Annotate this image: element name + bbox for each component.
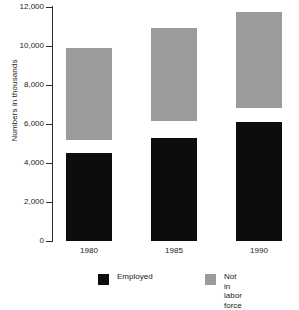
bar-segment-unemployed <box>236 108 282 122</box>
y-axis-tick-label: 2,000 <box>0 198 44 206</box>
y-axis-tick-label: 8,000 <box>0 81 44 89</box>
legend-swatch <box>205 274 216 285</box>
y-axis-tick-label: 0 <box>0 237 44 245</box>
y-axis-title: Numbers in thousands <box>10 31 19 171</box>
legend-label: Employed <box>117 272 153 282</box>
y-axis-tick <box>46 241 52 242</box>
bar-segment-employed <box>151 138 197 241</box>
y-axis-tick-label: 10,000 <box>0 42 44 50</box>
bar-segment-not-in-labor-force <box>236 12 282 109</box>
y-axis-tick-label: 6,000 <box>0 120 44 128</box>
y-axis-tick-label: 4,000 <box>0 159 44 167</box>
bar-segment-employed <box>66 153 112 241</box>
legend-swatch <box>98 274 109 285</box>
bar-segment-employed <box>236 122 282 241</box>
bar-segment-not-in-labor-force <box>66 48 112 140</box>
bar-segment-not-in-labor-force <box>151 28 197 121</box>
bar-segment-unemployed <box>66 140 112 154</box>
bar-1980 <box>66 48 112 241</box>
x-axis-label-1980: 1980 <box>64 246 114 255</box>
y-axis-tick-label: 12,000 <box>0 3 44 11</box>
plot-area <box>52 7 292 241</box>
x-axis-label-1985: 1985 <box>149 246 199 255</box>
x-axis-label-1990: 1990 <box>234 246 284 255</box>
legend-label: Not in labor force <box>224 272 242 310</box>
chart-legend: EmployedNot in labor force <box>0 272 299 302</box>
bar-segment-unemployed <box>151 121 197 138</box>
bar-1990 <box>236 12 282 241</box>
bar-1985 <box>151 28 197 241</box>
